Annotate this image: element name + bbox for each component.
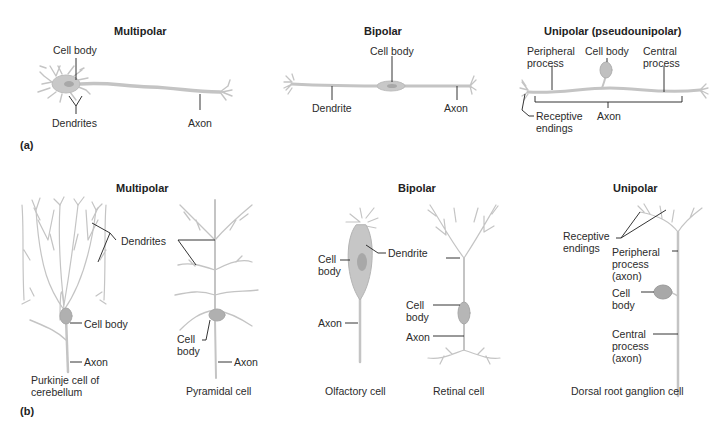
retinal-caption: Retinal cell	[433, 385, 484, 397]
purkinje-axon-label: Axon	[84, 356, 108, 368]
drg-peripheral-process-label: Peripheral process (axon)	[612, 246, 660, 282]
drg-caption: Dorsal root ganglion cell	[571, 385, 684, 397]
a-multipolar-dendrites-label: Dendrites	[52, 117, 97, 129]
a-multipolar-cell-body-label: Cell body	[53, 44, 97, 56]
a-unipolar-title: Unipolar (pseudounipolar)	[544, 25, 682, 37]
pyramidal-caption: Pyramidal cell	[186, 385, 251, 397]
a-unipolar-receptive-endings-label: Receptive endings	[536, 110, 583, 134]
a-unipolar-cell-body-label: Cell body	[585, 45, 629, 57]
pyramidal-axon-label: Axon	[234, 356, 258, 368]
retinal-cell-body-label: Cell body	[406, 299, 429, 323]
olfactory-axon-label: Axon	[318, 317, 342, 329]
purkinje-caption: Purkinje cell of cerebellum	[31, 374, 99, 398]
a-multipolar-axon-label: Axon	[188, 117, 212, 129]
a-unipolar-axon-label: Axon	[597, 110, 621, 122]
drg-receptive-endings-label: Receptive endings	[563, 230, 610, 254]
panel-a-label: (a)	[20, 139, 33, 151]
leader-lines	[69, 56, 682, 362]
a-unipolar-peripheral-process-label: Peripheral process	[527, 45, 575, 69]
drg-neuron	[638, 204, 702, 396]
a-bipolar-title: Bipolar	[364, 25, 402, 37]
olfactory-caption: Olfactory cell	[325, 385, 386, 397]
drg-cell-body-label: Cell body	[612, 287, 635, 311]
a-unipolar-central-process-label: Central process	[643, 45, 680, 69]
b-bipolar-title: Bipolar	[398, 182, 436, 194]
drg-central-process-label: Central process (axon)	[612, 328, 649, 364]
a-multipolar-title: Multipolar	[114, 25, 167, 37]
panel-b-label: (b)	[20, 405, 34, 417]
retinal-neuron	[428, 205, 500, 364]
neuron-diagram-art	[0, 0, 727, 429]
b-multipolar-title: Multipolar	[116, 182, 169, 194]
b-dendrites-label: Dendrites	[121, 235, 166, 247]
a-unipolar-neuron	[520, 72, 708, 100]
pyramidal-cell-body-label: Cell body	[177, 333, 200, 357]
a-bipolar-cell-body-label: Cell body	[370, 45, 414, 57]
purkinje-cell-body-label: Cell body	[84, 318, 128, 330]
purkinje-neuron	[22, 197, 106, 372]
retinal-axon-label: Axon	[406, 331, 430, 343]
a-bipolar-axon-label: Axon	[444, 102, 468, 114]
b-dendrite-label: Dendrite	[388, 247, 428, 259]
b-unipolar-title: Unipolar	[613, 182, 658, 194]
olfactory-cell-body-label: Cell body	[318, 253, 341, 277]
a-bipolar-dendrite-label: Dendrite	[312, 102, 352, 114]
